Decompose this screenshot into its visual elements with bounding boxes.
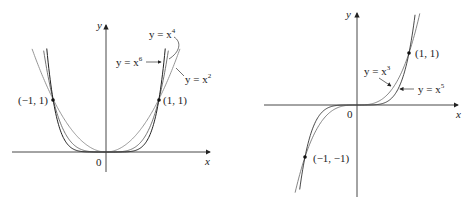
point-1-1	[157, 98, 161, 102]
leader-x2	[176, 68, 184, 76]
curve-x3	[295, 13, 420, 192]
point-label-neg1-1: (−1, 1)	[18, 94, 48, 107]
label-x3: y = x3	[364, 64, 391, 77]
point-1-1	[407, 51, 411, 55]
origin-label: 0	[96, 156, 102, 168]
x-axis-label: x	[455, 108, 461, 120]
y-axis-label: y	[96, 19, 102, 31]
label-x5: y = x5	[418, 82, 445, 95]
origin-label: 0	[347, 108, 353, 120]
label-x4: y = x4	[149, 27, 176, 40]
point-neg1-neg1	[303, 155, 307, 159]
figure-canvas: y x 0 (−1, 1) (1, 1) y = x4 y = x6 y = x…	[0, 0, 468, 202]
y-axis-label: y	[345, 8, 351, 20]
label-x6: y = x6	[116, 55, 143, 68]
x-axis-label: x	[204, 155, 210, 167]
label-x2: y = x2	[185, 72, 212, 85]
odd-powers-graph: y x 0 (1, 1) (−1, −1) y = x3 y = x5	[264, 8, 461, 197]
point-label-1-1: (1, 1)	[163, 94, 187, 107]
point-neg1-1	[51, 98, 55, 102]
leader-x3	[379, 78, 391, 86]
point-label-neg1-neg1: (−1, −1)	[313, 152, 350, 165]
even-powers-graph: y x 0 (−1, 1) (1, 1) y = x4 y = x6 y = x…	[12, 19, 212, 172]
point-label-1-1: (1, 1)	[415, 47, 439, 60]
